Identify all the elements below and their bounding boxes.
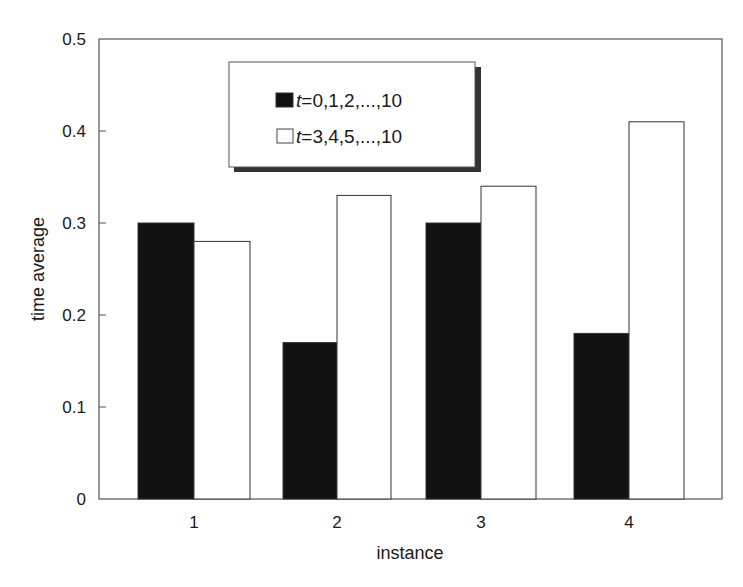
bar-series-2-instance-3 [481, 186, 536, 499]
bar-series-1-instance-3 [426, 223, 481, 499]
legend-swatch-series-2 [277, 129, 293, 143]
legend-box [229, 62, 475, 167]
legend-label-series-2-rest: =3,4,5,...,10 [301, 126, 402, 147]
legend-swatch-series-1 [276, 93, 293, 107]
bar-series-1-instance-4 [574, 333, 629, 499]
x-tick-label: 3 [476, 513, 485, 532]
y-tick-label: 0.1 [62, 398, 86, 417]
bar-series-1-instance-1 [138, 223, 194, 499]
bar-series-2-instance-1 [194, 241, 250, 499]
y-tick-label: 0.2 [62, 306, 86, 325]
bar-series-2-instance-4 [629, 122, 684, 499]
y-tick-label: 0.3 [62, 214, 86, 233]
x-tick-label: 1 [189, 513, 198, 532]
legend-label-series-2: t=3,4,5,...,10 [296, 126, 402, 147]
legend: t=0,1,2,...,10 t=3,4,5,...,10 [229, 62, 481, 172]
bar-series-1-instance-2 [283, 343, 337, 499]
y-tick-label: 0.5 [62, 30, 86, 49]
y-tick-label: 0 [77, 490, 86, 509]
x-axis-title: instance [376, 543, 443, 563]
legend-label-series-1: t=0,1,2,...,10 [296, 90, 402, 111]
x-tick-label: 4 [624, 513, 633, 532]
y-tick-label: 0.4 [62, 122, 86, 141]
bar-chart: 00.10.20.30.40.5 1234 instance time aver… [0, 0, 743, 587]
x-tick-label: 2 [332, 513, 341, 532]
bar-series-2-instance-2 [337, 195, 391, 499]
legend-label-series-1-rest: =0,1,2,...,10 [301, 90, 402, 111]
y-axis-title: time average [28, 217, 48, 321]
x-axis: 1234 [189, 513, 633, 532]
